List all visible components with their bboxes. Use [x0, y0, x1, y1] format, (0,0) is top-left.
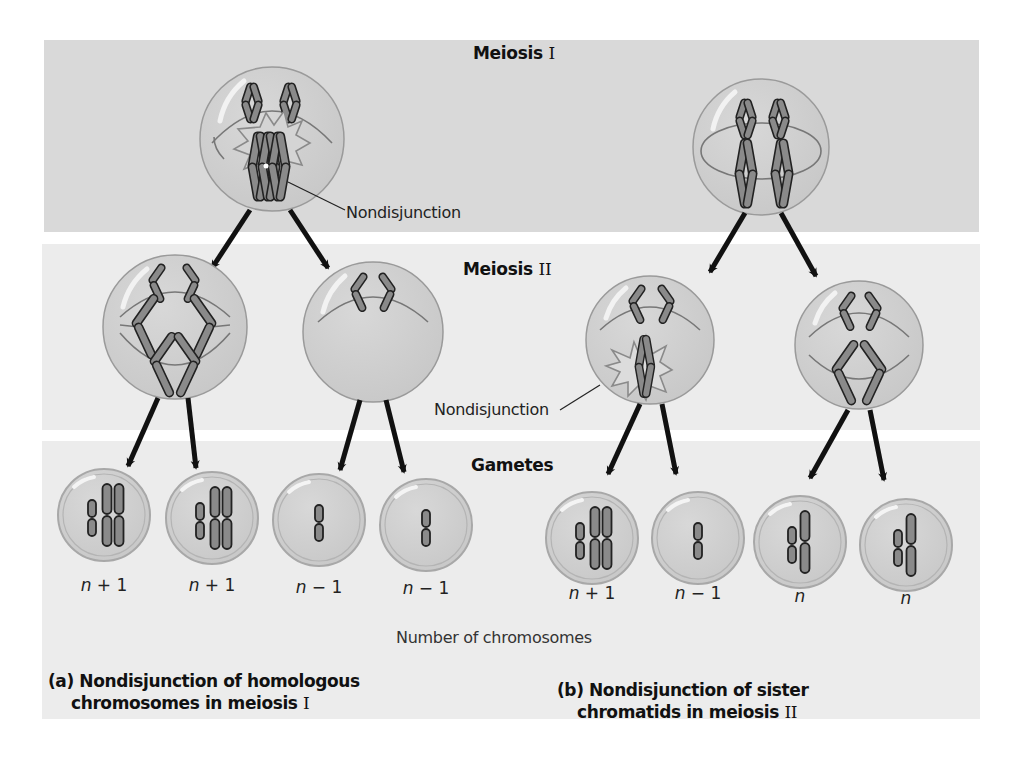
- gamete-count-b3: n: [755, 586, 845, 606]
- gamete-count-a3: n − 1: [274, 577, 364, 597]
- annotation-nondisjunction-meiosis-1: Nondisjunction: [346, 203, 461, 222]
- gamete-a3: [273, 474, 365, 566]
- row-label-gametes: Gametes: [471, 455, 553, 475]
- cell-meiosis2-a2: [303, 262, 443, 402]
- gamete-a2: [166, 472, 258, 564]
- gamete-b3: [754, 496, 846, 588]
- cell-meiosis2-b1: [586, 276, 714, 404]
- gamete-count-b2: n − 1: [653, 583, 743, 603]
- caption-a-line2: chromosomes in meiosis I: [48, 692, 360, 714]
- caption-b-line1: (b) Nondisjunction of sister: [557, 679, 808, 701]
- cell-meiosis1-b: [693, 79, 829, 215]
- axis-label-number-of-chromosomes: Number of chromosomes: [396, 628, 592, 647]
- caption-b: (b) Nondisjunction of sister chromatids …: [557, 679, 808, 723]
- row-label-meiosis-1: Meiosis I: [473, 43, 555, 63]
- gamete-b2: [652, 492, 744, 584]
- gamete-b1: [546, 492, 638, 584]
- annotation-nondisjunction-meiosis-2: Nondisjunction: [434, 400, 549, 419]
- gamete-count-a4: n − 1: [381, 578, 471, 598]
- leader-line-b: [560, 385, 600, 410]
- cell-meiosis2-a1: [103, 255, 247, 399]
- gamete-b4: [860, 499, 952, 591]
- gamete-count-b1: n + 1: [547, 583, 637, 603]
- caption-b-line2: chromatids in meiosis II: [557, 701, 808, 723]
- cell-meiosis2-b2: [795, 281, 923, 409]
- gamete-a1: [58, 469, 150, 561]
- gamete-count-a2: n + 1: [167, 575, 257, 595]
- row-label-meiosis-2: Meiosis II: [463, 259, 551, 279]
- caption-a-line1: (a) Nondisjunction of homologous: [48, 670, 360, 692]
- nondisjunction-diagram: [0, 0, 1029, 770]
- caption-a: (a) Nondisjunction of homologous chromos…: [48, 670, 360, 714]
- gamete-count-a1: n + 1: [59, 575, 149, 595]
- gamete-a4: [380, 479, 472, 571]
- cell-meiosis1-a: [200, 67, 344, 211]
- gamete-count-b4: n: [861, 588, 951, 608]
